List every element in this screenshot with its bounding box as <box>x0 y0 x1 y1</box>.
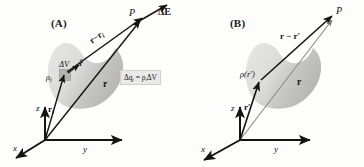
charged-body-blob-b <box>246 43 321 109</box>
volume-element-label-a: ΔV <box>59 60 69 69</box>
charge-density-label-a-sub: i <box>50 77 52 83</box>
x-axis-b <box>204 140 240 160</box>
separation-label-b: r − r′ <box>280 32 300 41</box>
position-label-b: r <box>297 78 301 88</box>
charge-formula-a: Δqᵢ = ρᵢΔV <box>120 70 161 85</box>
position-label-a: r <box>103 80 107 90</box>
source-position-label-a-sub: i <box>52 108 54 115</box>
field-label-a: ΔE <box>158 7 171 17</box>
y-axis-label-a: y <box>83 145 87 154</box>
x-axis-label-b: x <box>201 145 205 154</box>
charged-body-blob-a <box>48 43 123 109</box>
panel-b-artwork <box>182 0 364 167</box>
panel-label-b: (B) <box>230 17 245 29</box>
z-axis-label-a: z <box>36 104 40 113</box>
panel-a: (A) P ΔE r−ri r ri ΔV r̂ ρi Δqᵢ = ρᵢΔV z… <box>0 0 182 167</box>
source-position-label-a: ri <box>48 105 54 115</box>
unit-vector-label-a: r̂ <box>79 59 83 68</box>
point-label-a: P <box>129 8 135 18</box>
x-axis-a <box>16 140 45 158</box>
panel-b: (B) P r − r′ r r′ ρ(r′) z x y <box>182 0 364 167</box>
physics-figure: (A) P ΔE r−ri r ri ΔV r̂ ρi Δqᵢ = ρᵢΔV z… <box>0 0 364 167</box>
charge-density-label-a: ρi <box>46 73 52 83</box>
point-label-b: P <box>336 6 342 16</box>
z-axis-label-b: z <box>231 104 235 113</box>
panel-label-a: (A) <box>51 17 67 29</box>
x-axis-label-a: x <box>13 144 17 153</box>
source-position-label-b: r′ <box>244 103 251 112</box>
y-axis-label-b: y <box>274 145 278 154</box>
charge-density-label-b: ρ(r′) <box>240 70 255 79</box>
